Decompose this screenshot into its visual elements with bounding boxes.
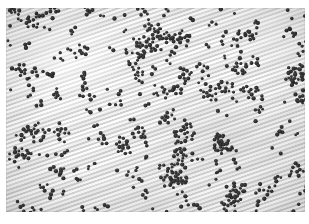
micrograph-figure xyxy=(0,0,309,224)
bacteria-svg xyxy=(6,8,305,212)
bacteria-layer xyxy=(6,8,305,212)
coccus-group xyxy=(6,8,305,212)
micrograph-plate xyxy=(6,8,305,212)
